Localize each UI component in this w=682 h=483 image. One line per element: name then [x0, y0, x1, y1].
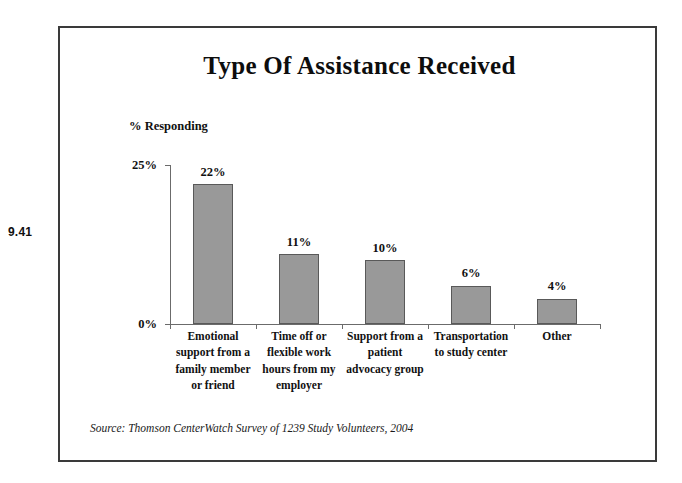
bar-value-label: 4% — [514, 280, 600, 293]
bar — [279, 254, 319, 324]
category-label: Transportationto study center — [425, 328, 517, 361]
bar-column: 11% — [256, 165, 342, 324]
bar — [193, 184, 233, 324]
x-axis-line — [170, 324, 600, 325]
bar — [451, 286, 491, 324]
bar — [537, 299, 577, 324]
bar-column: 4% — [514, 165, 600, 324]
category-label-line: flexible work — [253, 344, 345, 360]
plot-area: 25% 0% 22%11%10%6%4% Emotionalsupport fr… — [170, 165, 600, 324]
bar-value-label: 22% — [170, 166, 256, 179]
y-tick-label-0: 0% — [138, 318, 157, 331]
bar-column: 6% — [428, 165, 514, 324]
bar-value-label: 10% — [342, 242, 428, 255]
category-label-line: Other — [511, 328, 603, 344]
bar — [365, 260, 405, 324]
chart-title: Type Of Assistance Received — [60, 52, 659, 80]
category-label-line: advocacy group — [339, 361, 431, 377]
bar-column: 10% — [342, 165, 428, 324]
category-label-line: Time off or — [253, 328, 345, 344]
category-label: Emotionalsupport from afamily memberor f… — [167, 328, 259, 393]
category-label-line: support from a — [167, 344, 259, 360]
category-label-line: to study center — [425, 344, 517, 360]
bar-column: 22% — [170, 165, 256, 324]
y-tick-label-25: 25% — [132, 159, 157, 172]
category-label-line: family member — [167, 361, 259, 377]
category-label: Time off orflexible workhours from myemp… — [253, 328, 345, 393]
category-label-line: employer — [253, 377, 345, 393]
bar-value-label: 6% — [428, 267, 514, 280]
category-label-line: or friend — [167, 377, 259, 393]
y-axis-label: % Responding — [129, 119, 208, 134]
category-label-line: patient — [339, 344, 431, 360]
figure-number: 9.41 — [8, 225, 32, 239]
category-label-line: Emotional — [167, 328, 259, 344]
category-label: Support from apatientadvocacy group — [339, 328, 431, 377]
source-note: Source: Thomson CenterWatch Survey of 12… — [90, 422, 413, 434]
bar-value-label: 11% — [256, 236, 342, 249]
category-label-line: Transportation — [425, 328, 517, 344]
chart-frame: Type Of Assistance Received % Responding… — [58, 26, 657, 462]
category-label: Other — [511, 328, 603, 344]
category-label-line: hours from my — [253, 361, 345, 377]
category-label-line: Support from a — [339, 328, 431, 344]
